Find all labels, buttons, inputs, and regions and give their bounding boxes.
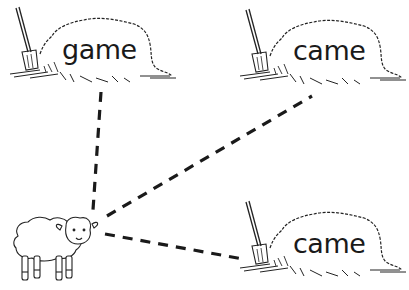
connector-to-top-left[interactable] <box>93 92 101 210</box>
word-top-right: came <box>293 37 365 64</box>
connector-to-bottom-right[interactable] <box>105 234 243 259</box>
connector-to-top-right[interactable] <box>107 96 312 216</box>
sheep-icon <box>14 217 98 280</box>
word-bottom-right: came <box>293 230 365 257</box>
word-top-left: game <box>62 36 137 63</box>
